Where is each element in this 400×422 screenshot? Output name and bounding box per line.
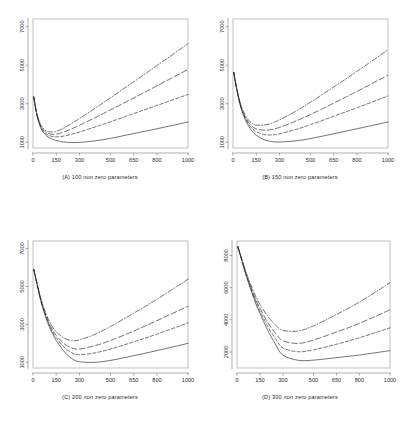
- x-tick-label: 1000: [382, 157, 394, 163]
- data-curve-dashed: [238, 247, 390, 352]
- y-tick-label: 4000: [223, 314, 229, 326]
- y-tick-label: 1000: [19, 136, 25, 148]
- y-tick-label: 3000: [19, 97, 25, 109]
- data-curve-solid: [234, 73, 388, 143]
- data-curve-dashed: [34, 94, 188, 136]
- y-tick-label: 6000: [223, 281, 229, 293]
- y-tick-label: 1000: [19, 356, 25, 368]
- x-tick-label: 500: [106, 157, 115, 163]
- chart-svg-d: 015030050065080010002000400060008000: [200, 211, 400, 422]
- data-curve-solid: [34, 97, 188, 143]
- data-curve-solid: [238, 247, 390, 361]
- x-tick-label: 0: [31, 157, 34, 163]
- x-tick-label: 0: [235, 377, 238, 383]
- data-curve-longdash: [34, 69, 188, 134]
- x-tick-label: 800: [355, 377, 364, 383]
- x-tick-label: 650: [329, 157, 338, 163]
- x-tick-label: 800: [152, 157, 161, 163]
- x-tick-label: 500: [306, 157, 315, 163]
- y-tick-label: 2000: [223, 346, 229, 358]
- chart-svg-c: 015030050065080010001000300050007000: [0, 211, 200, 422]
- x-tick-label: 300: [75, 157, 84, 163]
- x-tick-label: 800: [352, 157, 361, 163]
- data-curve-dashdot: [34, 269, 188, 340]
- x-tick-label: 650: [332, 377, 341, 383]
- y-tick-label: 5000: [19, 280, 25, 292]
- x-tick-label: 150: [52, 377, 61, 383]
- x-tick-label: 650: [129, 157, 138, 163]
- chart-panel-a: 015030050065080010001000300050007000 (A)…: [0, 0, 200, 211]
- x-tick-label: 1000: [384, 377, 396, 383]
- x-tick-label: 500: [106, 377, 115, 383]
- chart-panel-b: 015030050065080010001000300050007000 (B)…: [200, 0, 400, 211]
- y-tick-label: 3000: [19, 318, 25, 330]
- y-tick-label: 5000: [219, 59, 225, 71]
- x-tick-label: 150: [252, 157, 261, 163]
- y-tick-label: 7000: [219, 20, 225, 32]
- chart-panel-d: 015030050065080010002000400060008000 (D)…: [200, 211, 400, 422]
- x-tick-label: 300: [75, 377, 84, 383]
- y-tick-label: 7000: [19, 242, 25, 254]
- x-tick-label: 150: [52, 157, 61, 163]
- x-tick-label: 300: [278, 377, 287, 383]
- plot-frame: [33, 19, 188, 148]
- x-tick-label: 0: [31, 377, 34, 383]
- panel-caption-c: (C) 200 non zero parameters: [0, 394, 200, 400]
- x-tick-label: 1000: [182, 377, 194, 383]
- x-tick-label: 1000: [182, 157, 194, 163]
- figure-panel-grid: 015030050065080010001000300050007000 (A)…: [0, 0, 400, 422]
- y-tick-label: 3000: [219, 97, 225, 109]
- x-tick-label: 150: [255, 377, 264, 383]
- y-tick-label: 8000: [223, 249, 229, 261]
- data-curve-longdash: [34, 269, 188, 349]
- x-tick-label: 300: [275, 157, 284, 163]
- y-tick-label: 5000: [19, 59, 25, 71]
- x-tick-label: 500: [309, 377, 318, 383]
- panel-caption-a: (A) 100 non zero parameters: [0, 174, 200, 180]
- panel-caption-d: (D) 300 non zero parameters: [200, 394, 400, 400]
- y-tick-label: 7000: [19, 20, 25, 32]
- data-curve-dashed: [234, 73, 388, 135]
- data-curve-dashdot: [34, 44, 188, 132]
- chart-panel-c: 015030050065080010001000300050007000 (C)…: [0, 211, 200, 422]
- x-tick-label: 0: [231, 157, 234, 163]
- data-curve-solid: [34, 269, 188, 362]
- y-tick-label: 1000: [219, 136, 225, 148]
- panel-caption-b: (B) 150 non zero parameters: [200, 174, 400, 180]
- data-curve-dashdot: [238, 247, 390, 332]
- x-tick-label: 800: [152, 377, 161, 383]
- data-curve-longdash: [234, 73, 388, 131]
- x-tick-label: 650: [129, 377, 138, 383]
- data-curve-longdash: [238, 247, 390, 344]
